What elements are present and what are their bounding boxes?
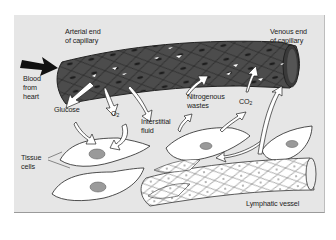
label-venous-end-line1: Venous end [270, 27, 307, 36]
label-oxygen-sub: 2 [117, 112, 120, 118]
label-nitrogenous-line1: Nitrogenous [187, 92, 225, 101]
label-tissue-cells: Tissue cells [21, 153, 41, 171]
waste-from-cell-arrow-icon [178, 114, 192, 132]
label-co2-text: CO [239, 97, 250, 106]
label-interstitial-line1: Interstitial [141, 117, 171, 126]
label-venous-end: Venous end of capillary [270, 27, 307, 45]
label-arterial-end-line2: of capillary [65, 36, 101, 45]
label-tissue-line1: Tissue [21, 153, 41, 162]
label-lymphatic-vessel: Lymphatic vessel [246, 199, 299, 208]
glucose-to-cell-arrow-icon [74, 122, 96, 144]
label-carbon-dioxide: CO2 [239, 97, 252, 108]
label-arterial-end-line1: Arterial end [65, 27, 101, 36]
label-venous-end-line2: of capillary [270, 36, 307, 45]
label-blood-line3: heart [23, 92, 41, 101]
label-co2-sub: 2 [250, 100, 253, 106]
label-tissue-line2: cells [21, 162, 41, 171]
label-nitrogenous-line2: wastes [187, 101, 225, 110]
label-interstitial-line2: fluid [141, 126, 171, 135]
lymphatic-lumen [306, 158, 316, 190]
label-oxygen: O2 [111, 109, 119, 120]
label-blood-line1: Blood [23, 74, 41, 83]
label-nitrogenous-wastes: Nitrogenous wastes [187, 92, 225, 110]
capillary [57, 41, 299, 104]
label-blood-line2: from [23, 83, 41, 92]
label-glucose: Glucose [54, 105, 80, 114]
label-blood-from-heart: Blood from heart [23, 74, 41, 101]
label-arterial-end: Arterial end of capillary [65, 27, 101, 45]
label-interstitial-fluid: Interstitial fluid [141, 117, 171, 135]
